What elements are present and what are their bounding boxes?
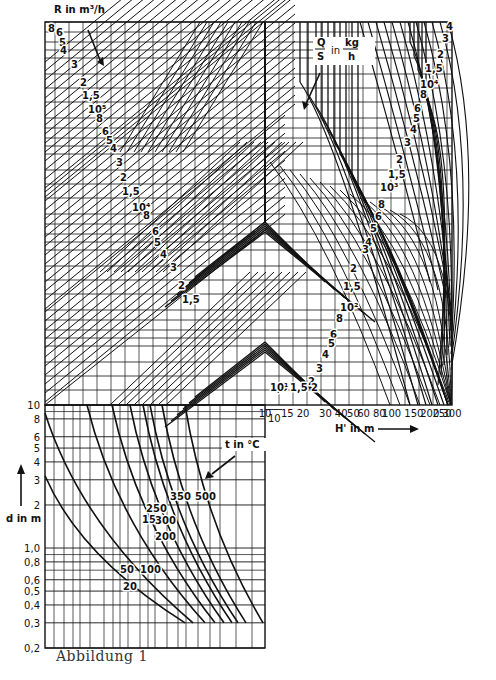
q-curve-label: 2 <box>311 382 318 393</box>
r-curve-label: 1,5 <box>182 294 200 305</box>
x-direction-arrow-icon <box>378 425 419 433</box>
temperature-curve-label: 350 <box>170 491 191 502</box>
q-curve-label: 5 <box>328 338 335 349</box>
r-curve-label: 1,5 <box>122 186 140 197</box>
r-curve-label: 1,5 <box>82 90 100 101</box>
y-tick-label: 0,4 <box>24 600 40 611</box>
q-curve-label: 8 <box>420 89 427 100</box>
r-curve-label: 6 <box>152 226 159 237</box>
y-tick-label: 6 <box>34 432 40 443</box>
x-tick-label: 300 <box>442 408 461 419</box>
x-tick-label: 40 <box>335 408 348 419</box>
y-tick-label: 1,0 <box>24 543 40 554</box>
x-tick-label: 30 <box>319 408 332 419</box>
q-direction-arrow-icon <box>302 73 320 110</box>
q-curve-label: 4 <box>446 21 453 32</box>
q-label-num: Q <box>317 37 326 48</box>
y-tick-label: 0,6 <box>24 575 40 586</box>
y-tick-label: 2 <box>34 500 40 511</box>
nomogram-chart: R in m³/h Q S in kg h H' in m d in m <box>0 0 496 680</box>
r-curve-label: 3 <box>71 59 78 70</box>
r-curve-label: 3 <box>170 262 177 273</box>
legend-title: t in °C <box>225 439 260 450</box>
r-curve-label: 3 <box>116 157 123 168</box>
temperature-curve-label: 250 <box>146 503 167 514</box>
q-curve-label: 3 <box>442 33 449 44</box>
y-tick-label: 4 <box>34 457 40 468</box>
q-curve-label: 4 <box>410 124 417 135</box>
q-curve-label: 8 <box>378 199 385 210</box>
q-curve-label: 5 <box>413 113 420 124</box>
q-curve-label: 1,5 <box>290 382 308 393</box>
y-tick-label: 0,3 <box>24 618 40 629</box>
q-curve-label: 4 <box>322 349 329 360</box>
curve-labels: 8654321,510⁵8654321,510⁴8654321,54321,51… <box>48 21 453 592</box>
q-curve-label: 8 <box>336 313 343 324</box>
r-axis-label: R in m³/h <box>54 4 105 15</box>
r-curve-label: 2 <box>120 172 127 183</box>
temperature-curve-label: 200 <box>155 531 176 542</box>
temperature-curve-label: 300 <box>155 515 176 526</box>
r-curve-label: 8 <box>96 113 103 124</box>
r-curve-label: 5 <box>154 237 161 248</box>
q-curve-label: 10³ <box>380 182 398 193</box>
q-curve-label: 1,5 <box>425 63 443 74</box>
r-curve-label: 8 <box>48 23 55 34</box>
temperature-curve-label: 50 <box>120 564 134 575</box>
y-tick-label: 0,5 <box>24 586 40 597</box>
r-curve-label: 4 <box>60 45 67 56</box>
q-curve-label: 10² <box>340 302 358 313</box>
q-curve-label: 1,5 <box>388 169 406 180</box>
q-curve-label: 10¹ <box>270 382 288 393</box>
y-axis-label: d in m <box>6 513 41 524</box>
q-label-unit-den: h <box>348 51 355 62</box>
q-curve-label: 5 <box>370 223 377 234</box>
y-direction-arrow-icon <box>17 464 25 506</box>
q-curve-label: 2 <box>437 49 444 60</box>
x-axis-label: H' in m <box>335 423 374 434</box>
q-curve-label: 2 <box>396 154 403 165</box>
y-tick-label: 5 <box>34 443 40 454</box>
x-tick-label: 60 <box>357 408 370 419</box>
y-tick-label: 3 <box>34 475 40 486</box>
r-curve-label: 2 <box>178 280 185 291</box>
q-curve-label: 3 <box>362 244 369 255</box>
r-curve-label: 4 <box>160 249 167 260</box>
r-curve-label: 8 <box>143 210 150 221</box>
r-curve-label: 4 <box>110 143 117 154</box>
q-curve-label: 6 <box>375 211 382 222</box>
y-tick-label: 0,2 <box>24 643 40 654</box>
x-tick-label: 100 <box>382 408 401 419</box>
q-curve-label: 1,5 <box>343 281 361 292</box>
y-tick-label: 0,8 <box>24 557 40 568</box>
q-curve-label: 3 <box>404 137 411 148</box>
figure-caption: Abbildung 1 <box>56 648 148 664</box>
q-label-unit-num: kg <box>345 37 359 48</box>
q-curve-label: 3 <box>316 363 323 374</box>
right-tick-label: 10 <box>268 413 281 424</box>
y-tick-label: 8 <box>34 414 40 425</box>
x-tick-label: 20 <box>297 408 310 419</box>
q-label-in: in <box>331 45 340 56</box>
temperature-curve-label: 20 <box>123 581 137 592</box>
temperature-curve-label: 500 <box>195 491 216 502</box>
q-label-den: S <box>317 51 324 62</box>
q-curve-label: 2 <box>350 263 357 274</box>
x-tick-label: 15 <box>281 408 294 419</box>
y-tick-label: 10 <box>27 400 40 411</box>
temperature-curve-label: 100 <box>140 564 161 575</box>
r-curve-label: 2 <box>80 77 87 88</box>
